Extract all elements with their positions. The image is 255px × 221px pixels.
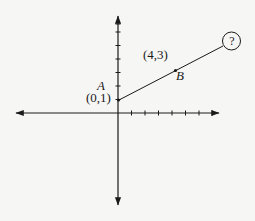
figure-root: A (0,1) B (4,3) ? bbox=[0, 0, 255, 221]
point-b-coordinates-label: (4,3) bbox=[143, 48, 168, 61]
point-a-coordinates-label: (0,1) bbox=[86, 91, 111, 104]
coordinate-plane bbox=[0, 0, 255, 221]
unknown-point-question-label: ? bbox=[226, 34, 238, 48]
point-b-label: B bbox=[176, 69, 184, 82]
ray-segment-ab bbox=[119, 46, 223, 100]
point-a-marker bbox=[117, 98, 120, 101]
